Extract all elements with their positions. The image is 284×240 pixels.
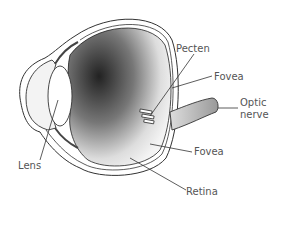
label-optic-nerve-line1: Optic (240, 97, 266, 108)
label-optic-nerve-line2: nerve (240, 109, 269, 120)
label-fovea-bottom: Fovea (194, 146, 224, 157)
label-fovea-top: Fovea (214, 71, 244, 82)
label-lens: Lens (18, 160, 41, 171)
label-retina: Retina (186, 186, 218, 197)
lens (48, 66, 72, 126)
label-pecten: Pecten (176, 43, 210, 54)
